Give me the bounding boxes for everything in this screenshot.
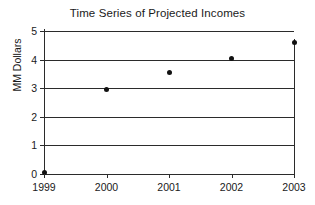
y-tick-label-4: 4 — [15, 55, 37, 66]
gridline-y-3 — [44, 88, 294, 89]
x-tick-label-2002: 2002 — [210, 182, 254, 193]
chart-title: Time Series of Projected Incomes — [0, 7, 315, 19]
x-tick-mark-2003 — [294, 174, 295, 178]
gridline-y-2 — [44, 117, 294, 118]
data-point-2003 — [292, 40, 297, 45]
x-tick-label-2001: 2001 — [147, 182, 191, 193]
chart-figure: Time Series of Projected Incomes MM Doll… — [0, 0, 315, 205]
x-tick-mark-2000 — [107, 174, 108, 178]
x-tick-mark-2001 — [169, 174, 170, 178]
x-tick-mark-2002 — [232, 174, 233, 178]
plot-area — [44, 31, 294, 174]
y-tick-label-1: 1 — [15, 140, 37, 151]
y-tick-label-2: 2 — [15, 112, 37, 123]
x-tick-mark-1999 — [44, 174, 45, 178]
gridline-y-1 — [44, 145, 294, 146]
x-tick-label-2000: 2000 — [85, 182, 129, 193]
x-tick-label-1999: 1999 — [22, 182, 66, 193]
right-axis-line — [294, 39, 295, 174]
data-point-2002 — [229, 56, 234, 61]
data-point-2001 — [167, 70, 172, 75]
x-tick-label-2003: 2003 — [272, 182, 315, 193]
y-tick-label-5: 5 — [15, 26, 37, 37]
y-tick-label-0: 0 — [15, 169, 37, 180]
gridline-y-4 — [44, 60, 294, 61]
y-tick-label-3: 3 — [15, 83, 37, 94]
data-point-2000 — [104, 87, 109, 92]
gridline-y-5 — [44, 31, 294, 32]
